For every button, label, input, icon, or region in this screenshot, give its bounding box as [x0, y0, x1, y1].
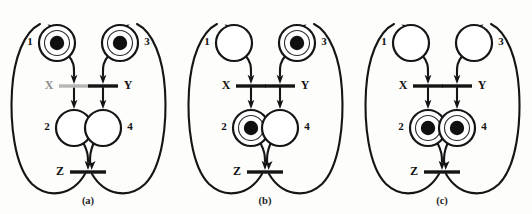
- node-layer: 1324XYZ: [27, 25, 150, 178]
- transition-bar: [70, 170, 106, 173]
- place-label-4: 4: [304, 120, 310, 132]
- transition-label-Z: Z: [56, 164, 64, 178]
- place-4: 4: [439, 110, 487, 146]
- transition-Z: Z: [233, 164, 283, 178]
- node-layer: 1324XYZ: [204, 25, 327, 178]
- transition-label-Y: Y: [124, 78, 133, 92]
- arc-place4-to-z: [267, 142, 271, 162]
- arc-layer: [12, 21, 166, 193]
- token-dot: [244, 121, 258, 135]
- arc-place1-to-x: [422, 55, 428, 76]
- place-label-2: 2: [44, 120, 50, 132]
- transition-label-Y: Y: [301, 78, 310, 92]
- petri-panel-c: 1324XYZ(c): [354, 0, 531, 214]
- place-3: 3: [279, 25, 327, 61]
- place-3: 3: [456, 25, 504, 61]
- place-1: 1: [27, 25, 75, 61]
- place-label-3: 3: [144, 35, 150, 47]
- place-label-1: 1: [204, 35, 210, 47]
- transition-bar: [424, 170, 460, 173]
- transition-X: X: [222, 78, 266, 92]
- place-label-4: 4: [481, 120, 487, 132]
- transition-bar: [59, 84, 89, 87]
- token-dot: [421, 121, 435, 135]
- transition-label-X: X: [399, 78, 408, 92]
- transition-Z: Z: [410, 164, 460, 178]
- petri-panel-a: 1324XYZ(a): [0, 0, 177, 214]
- place-1: 1: [381, 25, 429, 61]
- place-4: 4: [262, 110, 310, 146]
- place-circle: [85, 110, 121, 146]
- transition-X: X: [399, 78, 443, 92]
- place-circle: [456, 25, 492, 61]
- transition-bar: [236, 84, 266, 87]
- place-label-1: 1: [381, 35, 387, 47]
- transition-bar: [413, 84, 443, 87]
- arc-place3-to-y: [103, 55, 109, 76]
- arc-layer: [366, 21, 520, 193]
- panel-caption: (a): [82, 195, 95, 207]
- transition-X: X: [45, 78, 89, 92]
- transition-label-Z: Z: [233, 164, 241, 178]
- arc-place2-to-z: [260, 142, 265, 162]
- transition-bar: [442, 84, 472, 87]
- token-dot: [290, 36, 304, 50]
- petri-panel-b: 1324XYZ(b): [177, 0, 354, 214]
- node-layer: 1324XYZ: [381, 25, 504, 178]
- arc-place2-to-z: [83, 142, 88, 162]
- transition-bar: [265, 84, 295, 87]
- transition-label-X: X: [45, 78, 54, 92]
- transition-Y: Y: [265, 78, 310, 92]
- place-label-3: 3: [498, 35, 504, 47]
- transition-bar: [247, 170, 283, 173]
- panel-caption: (b): [259, 195, 272, 207]
- place-label-2: 2: [221, 120, 227, 132]
- token-dot: [50, 36, 64, 50]
- petri-net-figure: 1324XYZ(a)1324XYZ(b)1324XYZ(c): [0, 0, 532, 214]
- place-circle: [216, 25, 252, 61]
- transition-bar: [88, 84, 118, 87]
- token-dot: [450, 121, 464, 135]
- arc-layer: [189, 21, 343, 193]
- arc-place3-to-y: [280, 55, 286, 76]
- transition-label-X: X: [222, 78, 231, 92]
- transition-label-Z: Z: [410, 164, 418, 178]
- arc-place1-to-x: [68, 55, 74, 76]
- place-label-3: 3: [321, 35, 327, 47]
- arc-place3-to-y: [457, 55, 463, 76]
- place-label-4: 4: [127, 120, 133, 132]
- place-4: 4: [85, 110, 133, 146]
- transition-Y: Y: [88, 78, 133, 92]
- place-1: 1: [204, 25, 252, 61]
- panel-caption: (c): [436, 195, 448, 207]
- place-label-2: 2: [398, 120, 404, 132]
- transition-Y: Y: [442, 78, 487, 92]
- arc-place1-to-x: [245, 55, 251, 76]
- transition-Z: Z: [56, 164, 106, 178]
- arc-place4-to-z: [444, 142, 448, 162]
- place-label-1: 1: [27, 35, 33, 47]
- place-3: 3: [102, 25, 150, 61]
- token-dot: [113, 36, 127, 50]
- arc-place4-to-z: [90, 142, 94, 162]
- arc-place2-to-z: [437, 142, 442, 162]
- place-circle: [262, 110, 298, 146]
- transition-label-Y: Y: [478, 78, 487, 92]
- place-circle: [393, 25, 429, 61]
